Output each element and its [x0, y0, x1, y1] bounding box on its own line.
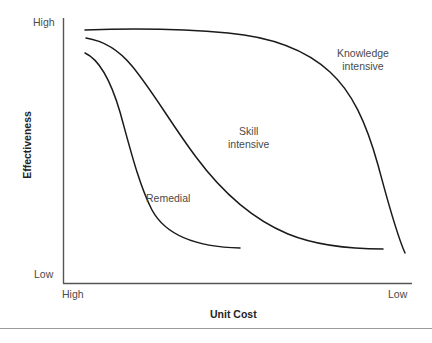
x-axis-tick-low: Low	[388, 288, 407, 300]
footer-divider	[0, 328, 432, 329]
series-label-remedial: Remedial	[146, 192, 190, 205]
series-label-knowledge-line1: Knowledge	[337, 47, 389, 60]
series-label-skill-line2: intensive	[228, 138, 269, 151]
curve-remedial	[85, 53, 240, 248]
y-axis-title-text: Effectiveness	[21, 111, 33, 179]
series-label-knowledge-line2: intensive	[337, 60, 389, 73]
x-axis-tick-high: High	[62, 288, 84, 300]
effectiveness-vs-unit-cost-chart: High Low High Low Effectiveness Unit Cos…	[0, 0, 432, 343]
series-label-skill-intensive: Skill intensive	[228, 125, 269, 150]
x-axis-title: Unit Cost	[210, 308, 257, 320]
series-label-knowledge-intensive: Knowledge intensive	[337, 47, 389, 72]
y-axis-tick-low: Low	[34, 268, 53, 280]
y-axis-tick-high: High	[33, 16, 55, 28]
series-label-skill-line1: Skill	[228, 125, 269, 138]
y-axis-title: Effectiveness	[20, 100, 34, 190]
